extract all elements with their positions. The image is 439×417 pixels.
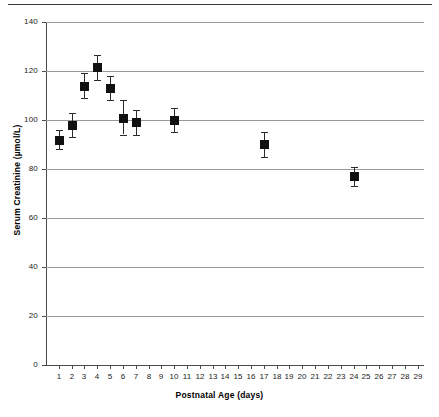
error-bar-cap-lower	[133, 135, 140, 136]
error-bar-cap-upper	[261, 132, 268, 133]
error-bar-cap-lower	[261, 157, 268, 158]
error-bar-cap-lower	[351, 186, 358, 187]
data-point-marker	[170, 116, 179, 125]
error-bar-cap-lower	[56, 149, 63, 150]
error-bar-cap-upper	[94, 55, 101, 56]
error-bar-cap-lower	[81, 98, 88, 99]
error-bar-cap-upper	[69, 113, 76, 114]
data-point-marker	[80, 82, 89, 91]
error-bar-cap-upper	[56, 130, 63, 131]
error-bar-cap-lower	[94, 80, 101, 81]
data-point-marker	[106, 84, 115, 93]
data-point-marker	[93, 63, 102, 72]
data-point-marker	[350, 172, 359, 181]
error-bar-cap-lower	[120, 135, 127, 136]
error-bar-cap-lower	[69, 137, 76, 138]
error-bar-cap-upper	[351, 167, 358, 168]
chart-figure: 020406080100120140 123456789101112131415…	[0, 0, 439, 417]
error-bar-cap-lower	[107, 100, 114, 101]
error-bar-cap-upper	[107, 76, 114, 77]
data-point-marker	[260, 140, 269, 149]
x-axis-title: Postnatal Age (days)	[0, 390, 439, 400]
error-bar-cap-upper	[133, 110, 140, 111]
error-bar-cap-upper	[171, 108, 178, 109]
data-point-marker	[119, 114, 128, 123]
data-point-marker	[132, 118, 141, 127]
data-point-marker	[68, 121, 77, 130]
data-series-layer	[0, 0, 439, 417]
error-bar-cap-lower	[171, 132, 178, 133]
y-axis-title: Serum Creatinine (µmol/L)	[12, 75, 22, 285]
error-bar-cap-upper	[81, 73, 88, 74]
error-bar-cap-upper	[120, 100, 127, 101]
data-point-marker	[55, 136, 64, 145]
